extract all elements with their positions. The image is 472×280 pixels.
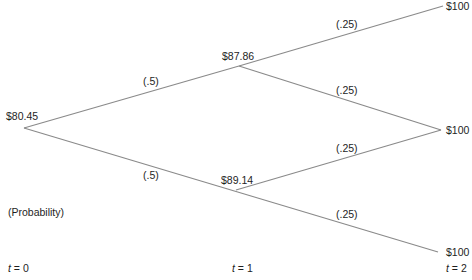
- time-value: = 1: [238, 262, 253, 274]
- edge-up-uu: [239, 6, 443, 66]
- node-up-value: $87.86: [222, 50, 254, 62]
- node-dd-value: $100: [446, 246, 469, 258]
- node-root-value: $80.45: [6, 110, 38, 122]
- time-var: t: [8, 262, 11, 274]
- time-value: = 0: [14, 262, 29, 274]
- time-label-t0: t = 0: [8, 262, 29, 274]
- prob-up-ud: (.25): [336, 84, 358, 96]
- edge-down-ud: [236, 130, 441, 190]
- prob-root-down: (.5): [143, 169, 159, 181]
- time-value: = 2: [452, 262, 467, 274]
- node-down-value: $89.14: [221, 174, 253, 186]
- edge-root-down: [24, 128, 438, 252]
- time-var: t: [232, 262, 235, 274]
- node-ud-value: $100: [446, 124, 469, 136]
- prob-root-up: (.5): [143, 75, 159, 87]
- time-var: t: [446, 262, 449, 274]
- prob-down-dd: (.25): [336, 208, 358, 220]
- tree-lines: [0, 0, 472, 280]
- prob-down-ud: (.25): [336, 142, 358, 154]
- edge-root-up: [24, 66, 239, 128]
- node-uu-value: $100: [446, 0, 469, 12]
- time-label-t2: t = 2: [446, 262, 467, 274]
- legend-probability: (Probability): [8, 206, 64, 218]
- time-label-t1: t = 1: [232, 262, 253, 274]
- edge-up-ud: [239, 66, 441, 130]
- prob-up-uu: (.25): [336, 18, 358, 30]
